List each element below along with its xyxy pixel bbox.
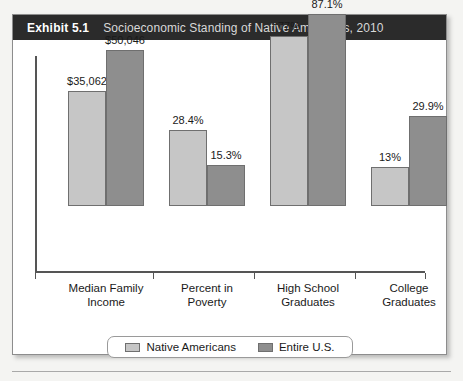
bar-value-label: 28.4% [172, 114, 203, 127]
category-label: Median FamilyIncome [51, 281, 161, 309]
bar[interactable] [106, 50, 144, 206]
legend-item[interactable]: Native Americans [125, 341, 235, 353]
legend-swatch [125, 343, 140, 352]
bar[interactable] [270, 36, 308, 206]
bar[interactable] [308, 14, 346, 206]
exhibit-panel: Exhibit 5.1 Socioeconomic Standing of Na… [12, 14, 447, 355]
page-divider-rule [12, 371, 451, 372]
category-label-line: Percent in [152, 281, 262, 295]
category-label-line: Poverty [152, 295, 262, 309]
category-label-line: Income [51, 295, 161, 309]
bar-value-label: $50,046 [105, 34, 145, 47]
bar-value-label: 87.1% [311, 0, 342, 11]
legend-swatch [258, 343, 273, 352]
category-label-line: College [354, 281, 463, 295]
bar[interactable] [68, 91, 106, 206]
bar[interactable] [207, 165, 245, 206]
chart-plot-area: $35,062$50,04628.4%15.3%77%87.1%13%29.9%… [13, 40, 446, 354]
category-label-line: Median Family [51, 281, 161, 295]
bar-column: 29.9% [409, 0, 447, 206]
bar-column: 15.3% [207, 0, 245, 206]
bar-column: 77% [270, 0, 308, 206]
bar[interactable] [371, 167, 409, 206]
bar-value-label: 13% [379, 151, 401, 164]
category-label-line: Graduates [354, 295, 463, 309]
bar-value-label: 15.3% [210, 149, 241, 162]
bar[interactable] [169, 130, 207, 206]
legend-label: Native Americans [146, 341, 235, 353]
category-label: High SchoolGraduates [253, 281, 363, 309]
category-label-line: Graduates [253, 295, 363, 309]
bar-value-label: $35,062 [67, 75, 107, 88]
bar-column: 28.4% [169, 0, 207, 206]
legend-item[interactable]: Entire U.S. [258, 341, 335, 353]
category-label-line: High School [253, 281, 363, 295]
bar-value-label: 77% [278, 20, 300, 33]
chart-legend: Native AmericansEntire U.S. [107, 336, 353, 358]
legend-label: Entire U.S. [279, 341, 335, 353]
category-label: Percent inPoverty [152, 281, 262, 309]
bar-column: $35,062 [68, 0, 106, 206]
bar-column: $50,046 [106, 0, 144, 206]
bar[interactable] [409, 116, 447, 206]
category-label: CollegeGraduates [354, 281, 463, 309]
bar-value-label: 29.9% [412, 100, 443, 113]
bar-column: 87.1% [308, 0, 346, 206]
bar-column: 13% [371, 0, 409, 206]
